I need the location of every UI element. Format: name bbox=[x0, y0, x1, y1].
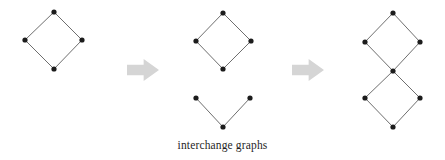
nodes-layer bbox=[22, 9, 422, 129]
graph-vertex bbox=[193, 38, 198, 43]
graph-edge bbox=[393, 13, 420, 42]
panel-edges bbox=[25, 12, 82, 69]
graph-vertex bbox=[22, 37, 27, 42]
graph-edge bbox=[196, 13, 223, 41]
graph-vertex bbox=[362, 39, 367, 44]
graph-vertex bbox=[51, 66, 56, 71]
graph-vertex bbox=[247, 95, 252, 100]
graph-vertex bbox=[390, 68, 395, 73]
arrows-layer bbox=[127, 59, 324, 81]
graph-vertex bbox=[390, 10, 395, 15]
graph-vertex bbox=[51, 9, 56, 14]
graph-vertex bbox=[220, 124, 225, 129]
graph-edge bbox=[25, 12, 54, 40]
panel-nodes bbox=[362, 10, 422, 129]
graph-edge bbox=[365, 13, 393, 42]
graph-edge bbox=[393, 71, 420, 98]
graph-edge bbox=[54, 12, 82, 40]
graph-edge bbox=[365, 42, 393, 71]
panel-nodes bbox=[193, 10, 253, 129]
panel-nodes bbox=[22, 9, 84, 71]
graph-vertex bbox=[362, 95, 367, 100]
interchange-graphs-figure: interchange graphs bbox=[0, 0, 445, 160]
graph-diagram-canvas bbox=[0, 0, 445, 160]
graph-vertex bbox=[79, 37, 84, 42]
graph-edge bbox=[196, 41, 223, 69]
graph-vertex bbox=[417, 95, 422, 100]
transformation-arrow-icon bbox=[292, 59, 324, 81]
graph-edge bbox=[365, 71, 393, 98]
graph-vertex bbox=[390, 124, 395, 129]
graph-edge bbox=[393, 42, 420, 71]
figure-caption: interchange graphs bbox=[0, 138, 445, 152]
graph-edge bbox=[365, 98, 393, 127]
graph-edge bbox=[223, 41, 251, 69]
graph-vertex bbox=[220, 10, 225, 15]
graph-edge bbox=[223, 98, 250, 127]
graph-vertex bbox=[193, 95, 198, 100]
graph-edge bbox=[223, 13, 251, 41]
graph-edge bbox=[54, 40, 82, 69]
graph-vertex bbox=[248, 38, 253, 43]
graph-edge bbox=[25, 40, 54, 69]
graph-vertex bbox=[417, 39, 422, 44]
graph-edge bbox=[393, 98, 420, 127]
graph-vertex bbox=[220, 66, 225, 71]
transformation-arrow-icon bbox=[127, 59, 159, 81]
graph-edge bbox=[196, 98, 223, 127]
